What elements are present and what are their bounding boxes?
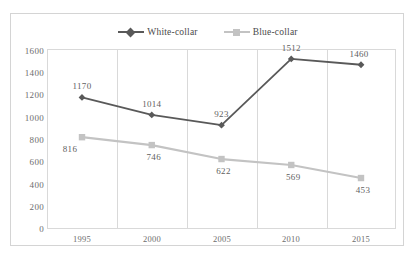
- chart-legend: White-collar Blue-collar: [0, 27, 416, 37]
- data-point-label: 453: [343, 185, 383, 195]
- data-point-label: 1170: [62, 81, 102, 91]
- legend-item-white-collar[interactable]: White-collar: [118, 27, 197, 37]
- line-chart: 1600 1400 1200 1000 800 600 400 200 0 19…: [0, 0, 416, 259]
- data-point-marker: [79, 94, 86, 101]
- series-layer: [0, 0, 416, 259]
- data-point-marker: [358, 61, 365, 68]
- legend-label: White-collar: [147, 27, 197, 37]
- legend-label: Blue-collar: [253, 27, 298, 37]
- data-point-label: 622: [204, 166, 244, 176]
- data-point-label: 1512: [271, 43, 311, 53]
- legend-marker-diamond-icon: [118, 27, 144, 37]
- legend-item-blue-collar[interactable]: Blue-collar: [224, 27, 298, 37]
- data-point-marker: [79, 134, 85, 140]
- data-point-label: 746: [134, 152, 174, 162]
- data-point-label: 1460: [339, 49, 379, 59]
- data-point-label: 816: [50, 144, 90, 154]
- data-point-marker: [358, 175, 364, 181]
- data-point-marker: [288, 162, 294, 168]
- data-point-marker: [148, 112, 155, 119]
- data-point-label: 569: [273, 172, 313, 182]
- data-point-label: 1014: [132, 99, 172, 109]
- data-point-marker: [218, 156, 224, 162]
- data-point-marker: [149, 142, 155, 148]
- legend-marker-square-icon: [224, 27, 250, 37]
- data-point-label: 923: [202, 109, 242, 119]
